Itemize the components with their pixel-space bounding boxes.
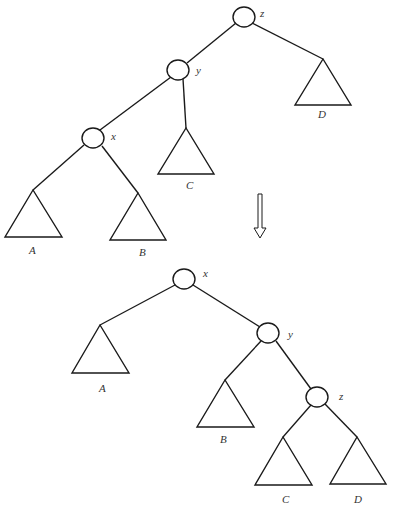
tree-rotation-diagram: z y x D C A B x y z A bbox=[0, 0, 393, 512]
subtree-d-label: D bbox=[353, 493, 362, 505]
node-z bbox=[233, 7, 255, 27]
subtree-a bbox=[5, 190, 62, 237]
edge-z-y bbox=[187, 23, 236, 63]
after-tree: x y z A B C D bbox=[72, 267, 386, 505]
node-y-label: y bbox=[195, 64, 201, 76]
subtree-b-label: B bbox=[139, 246, 146, 258]
subtree-b bbox=[197, 380, 254, 427]
subtree-c bbox=[255, 437, 312, 485]
edge-y-x bbox=[100, 77, 171, 130]
node-z-label: z bbox=[338, 390, 344, 402]
subtree-c-label: C bbox=[282, 493, 290, 505]
subtree-c-label: C bbox=[186, 179, 194, 191]
node-x-label: x bbox=[202, 267, 208, 279]
before-tree: z y x D C A B bbox=[5, 7, 351, 258]
node-y bbox=[257, 323, 279, 343]
edge-z-d bbox=[252, 23, 323, 59]
node-z bbox=[306, 387, 328, 407]
subtree-a-label: A bbox=[98, 382, 106, 394]
subtree-a bbox=[72, 325, 129, 373]
node-y-label: y bbox=[287, 328, 293, 340]
subtree-a-label: A bbox=[28, 244, 36, 256]
node-x bbox=[82, 128, 104, 148]
subtree-c bbox=[158, 128, 214, 174]
edge-x-a bbox=[33, 145, 84, 190]
subtree-d bbox=[330, 437, 386, 484]
edge-z-d bbox=[325, 404, 357, 437]
subtree-b bbox=[110, 193, 166, 240]
edge-y-z bbox=[276, 341, 311, 389]
subtree-d bbox=[295, 59, 351, 105]
rotation-arrow-icon bbox=[254, 194, 266, 238]
edge-x-b bbox=[102, 146, 138, 193]
edge-z-c bbox=[283, 405, 311, 437]
subtree-d-label: D bbox=[317, 108, 326, 120]
node-y bbox=[167, 60, 189, 80]
node-z-label: z bbox=[259, 7, 265, 19]
subtree-b-label: B bbox=[220, 433, 227, 445]
node-x bbox=[173, 269, 195, 289]
edge-x-a bbox=[100, 285, 175, 325]
edge-x-y bbox=[193, 285, 260, 327]
node-x-label: x bbox=[110, 130, 116, 142]
edge-y-c bbox=[183, 79, 186, 128]
edge-y-b bbox=[225, 341, 261, 380]
